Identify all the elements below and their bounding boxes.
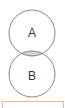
venn-diagram: A B <box>0 0 65 108</box>
label-a: A <box>28 26 36 40</box>
label-b: B <box>28 69 36 83</box>
answer-box <box>2 101 64 108</box>
